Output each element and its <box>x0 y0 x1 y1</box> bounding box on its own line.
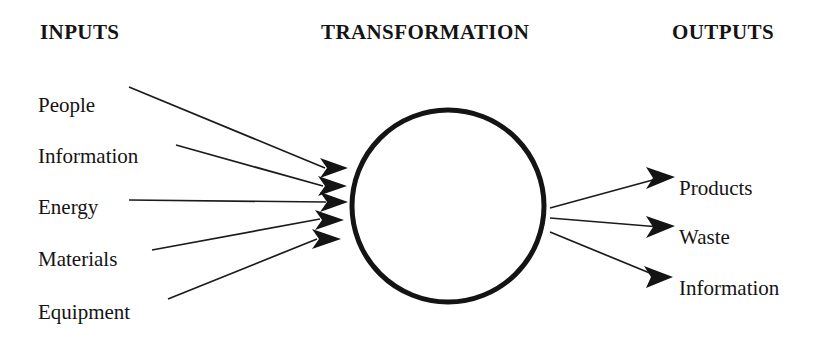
input-arrowhead-materials <box>315 210 344 230</box>
output-arrow-shafts <box>550 178 660 276</box>
output-label-information: Information <box>679 278 779 299</box>
output-arrow-waste-line <box>550 218 660 227</box>
input-arrow-people-line <box>129 87 325 168</box>
output-arrowhead-products <box>646 167 675 189</box>
output-label-waste: Waste <box>679 227 730 248</box>
process-diagram: INPUTS TRANSFORMATION OUTPUTS <box>0 0 834 344</box>
input-arrow-materials-line <box>152 219 320 250</box>
input-label-materials: Materials <box>38 249 117 270</box>
input-arrow-heads <box>312 158 348 249</box>
output-arrow-products-line <box>550 178 660 208</box>
output-label-products: Products <box>679 178 753 199</box>
input-arrow-energy-line <box>129 200 326 202</box>
input-label-energy: Energy <box>38 197 98 218</box>
input-label-people: People <box>38 95 95 116</box>
input-label-information: Information <box>38 146 138 167</box>
output-arrow-heads <box>644 167 675 288</box>
output-arrowhead-information <box>644 266 673 288</box>
input-label-equipment: Equipment <box>38 302 130 323</box>
transformation-circle <box>352 110 544 302</box>
input-arrow-shafts <box>129 87 326 299</box>
output-arrow-information-line <box>550 232 657 276</box>
input-arrow-information-line <box>176 145 323 186</box>
input-arrow-equipment-line <box>168 239 317 299</box>
